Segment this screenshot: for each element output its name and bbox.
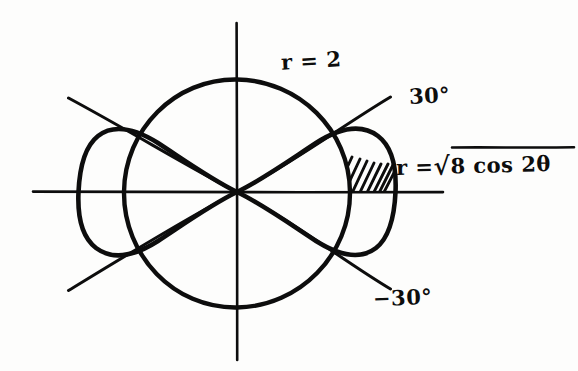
label-angle-30-text: 30°: [408, 82, 450, 109]
label-lemniscate-prefix: r =: [396, 154, 434, 180]
label-angle-30: 30°: [408, 82, 450, 109]
figure-canvas: r = 2 30° −30° r =√8 cos 2θ: [0, 0, 578, 371]
label-lemniscate-radicand: 8 cos 2θ: [450, 151, 551, 179]
radical-icon: √: [433, 152, 451, 181]
hatch-lines: [332, 157, 399, 207]
label-angle-minus-30-text: −30°: [373, 284, 433, 311]
label-lemniscate-equation: r =√8 cos 2θ: [396, 148, 552, 181]
label-circle-equation: r = 2: [280, 46, 342, 75]
label-circle-text: r = 2: [280, 46, 342, 75]
label-angle-minus-30: −30°: [373, 284, 433, 311]
hatched-region-group: [332, 157, 399, 207]
